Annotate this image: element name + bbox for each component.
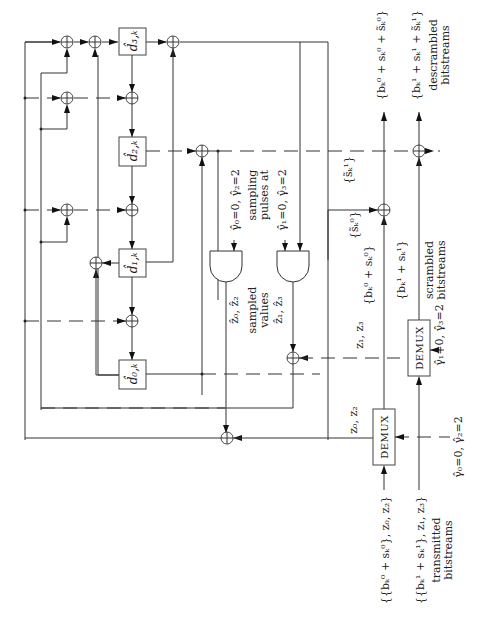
xor-node bbox=[61, 92, 73, 104]
transmitted-1-label: {{bₖ¹ + sₖ¹}, z₁, z₃} bbox=[414, 496, 427, 604]
descrambled-0-label: {bₖ⁰ + sₖ⁰ + s̃ₖ⁰} bbox=[375, 10, 388, 100]
demux-1: DEMUX bbox=[408, 320, 430, 376]
arrow-icon bbox=[129, 196, 135, 204]
arrow-icon bbox=[80, 39, 89, 45]
s0-estimate-label: {s̃ₖ⁰} bbox=[348, 211, 361, 239]
arrow-icon bbox=[117, 318, 126, 324]
xor-node bbox=[221, 432, 233, 444]
arrow-icon bbox=[129, 84, 135, 92]
arrow-icon bbox=[129, 241, 135, 249]
arrow-icon bbox=[290, 344, 296, 352]
arrow-icon bbox=[102, 260, 111, 266]
and-gate-0 bbox=[210, 251, 242, 282]
arrow-icon bbox=[158, 39, 167, 45]
arrow-icon bbox=[199, 157, 205, 166]
pulses-at-label: pulses at bbox=[258, 169, 271, 219]
register-d0-label: d̂₀,ₖ bbox=[123, 363, 140, 384]
arrow-icon bbox=[92, 48, 98, 57]
xor-node bbox=[61, 204, 73, 216]
demux-0-label: DEMUX bbox=[379, 415, 390, 459]
scrambled-caption-2: bitstreams bbox=[435, 240, 448, 300]
demux-0-control-label: γ̂₀=0, γ̂₂=2 bbox=[452, 416, 465, 477]
xor-node bbox=[287, 352, 299, 364]
xor-node bbox=[61, 36, 73, 48]
xor-node bbox=[167, 36, 179, 48]
scrambled-1-label: {bₖ¹ + sₖ¹} bbox=[395, 240, 408, 300]
transmitted-caption-2: bitstreams bbox=[442, 520, 455, 580]
values-label: values bbox=[258, 292, 271, 329]
arrow-icon bbox=[129, 352, 135, 360]
register-d3: d̂₃,ₖ bbox=[119, 28, 146, 55]
arrow-icon bbox=[52, 95, 61, 101]
xor-node bbox=[90, 257, 102, 269]
arrow-icon bbox=[381, 112, 387, 121]
register-d1: d̂₁,ₖ bbox=[119, 249, 146, 277]
register-d2-label: d̂₂,ₖ bbox=[123, 140, 140, 161]
arrow-icon bbox=[109, 39, 118, 45]
arrow-icon bbox=[64, 48, 70, 57]
z1-z3-label: z₁, z₃ bbox=[353, 321, 366, 348]
register-d2: d̂₂,ₖ bbox=[119, 137, 146, 166]
demux-1-label: DEMUX bbox=[414, 326, 425, 370]
arrow-icon bbox=[129, 307, 135, 315]
arrow-icon bbox=[129, 129, 135, 137]
xor-node bbox=[126, 92, 138, 104]
arrow-icon bbox=[64, 216, 70, 225]
arrow-icon bbox=[297, 243, 303, 251]
register-d0: d̂₀,ₖ bbox=[119, 360, 146, 389]
register-d1-label: d̂₁,ₖ bbox=[123, 252, 140, 273]
z0-z2-label: z₀, z₂ bbox=[347, 406, 360, 433]
arrow-icon bbox=[416, 376, 422, 385]
and-gate-1 bbox=[277, 251, 309, 282]
feedback-loop-2 bbox=[41, 55, 67, 410]
gate-1-control-label: γ̂₁=0, γ̂₃=2 bbox=[276, 169, 289, 230]
descrambler-block-diagram: d̂₃,ₖ d̂₂,ₖ d̂₁,ₖ bbox=[0, 0, 487, 621]
gate-1-output-label: ẑ₁, ẑ₃ bbox=[272, 296, 285, 323]
scrambled-0-label: {bₖ⁰ + sₖ⁰} bbox=[362, 245, 375, 305]
xor-node bbox=[89, 36, 101, 48]
xor-node bbox=[126, 204, 138, 216]
arrow-icon bbox=[52, 207, 61, 213]
arrow-icon bbox=[369, 207, 378, 213]
descrambled-caption-2: bitstreams bbox=[439, 25, 452, 85]
xor-node-s1 bbox=[413, 145, 425, 157]
arrow-icon bbox=[64, 104, 70, 113]
demux-0: DEMUX bbox=[373, 409, 395, 465]
xor-node-s0 bbox=[378, 204, 390, 216]
arrow-icon bbox=[395, 434, 404, 440]
arrow-icon bbox=[52, 39, 61, 45]
arrow-icon bbox=[416, 112, 422, 121]
xor-node bbox=[196, 145, 208, 157]
xor-node bbox=[126, 315, 138, 327]
transmitted-0-label: {{bₖ⁰ + sₖ⁰}, z₀, z₂} bbox=[379, 496, 392, 604]
arrow-icon bbox=[231, 243, 237, 251]
register-d3-label: d̂₃,ₖ bbox=[123, 30, 140, 51]
arrow-icon bbox=[282, 243, 288, 251]
gate-0-control-label: γ̂₀=0, γ̂₂=2 bbox=[229, 169, 242, 230]
s1-estimate-label: {s̃ₖ¹} bbox=[342, 156, 355, 184]
feedback-loop-outer bbox=[25, 42, 52, 440]
arrow-icon bbox=[425, 148, 434, 154]
arrow-icon bbox=[117, 95, 126, 101]
arrow-icon bbox=[381, 465, 387, 474]
arrow-icon bbox=[117, 207, 126, 213]
arrow-icon bbox=[187, 148, 196, 154]
descrambled-1-label: {bₖ¹ + sₖ¹ + s̃ₖ¹} bbox=[410, 10, 423, 100]
gate-0-output-label: ẑ₀, ẑ₂ bbox=[228, 296, 241, 323]
demux-1-control-label: γ̂₁=0, γ̂₃=2 bbox=[433, 304, 446, 365]
